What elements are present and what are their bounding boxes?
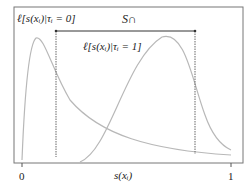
curve-tau-1 [80, 36, 231, 162]
likelihood-diagram [0, 0, 249, 186]
curve-tau-1-label: ℓ[s(xᵢ)|τᵢ = 1] [83, 40, 142, 52]
bracket-end-left [55, 30, 58, 33]
overlap-label: S∩ [122, 13, 137, 25]
x-axis-label: s(xᵢ) [114, 169, 132, 181]
x-tick-label-1: 1 [228, 170, 234, 182]
bracket-end-right [194, 30, 197, 33]
curve-tau-0-label: ℓ[s(xᵢ)|τᵢ = 0] [17, 12, 76, 24]
x-tick-label-0: 0 [19, 170, 25, 182]
plot-frame [14, 7, 243, 163]
